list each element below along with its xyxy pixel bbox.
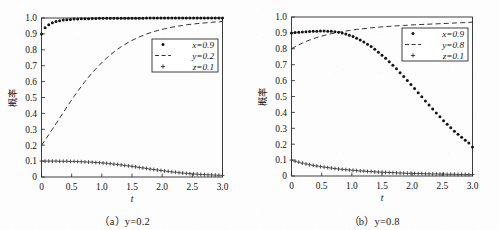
y-tick-label: 0.3 — [25, 125, 37, 135]
legend-label: z=0.1 — [441, 51, 463, 61]
series-marker-dot — [138, 17, 141, 20]
legend-label: z=0.1 — [192, 62, 214, 72]
series-marker-plus — [155, 168, 159, 172]
y-tick-label: 0.4 — [275, 108, 287, 118]
series-marker-dot — [217, 17, 220, 20]
series-marker-dot — [44, 26, 47, 29]
series-marker-dot — [131, 17, 134, 20]
series-marker-plus — [307, 163, 311, 167]
panel-b-caption: （b）y=0.8 — [250, 213, 499, 228]
series-marker-dot — [322, 29, 325, 32]
series-marker-plus — [159, 169, 163, 173]
series-marker-plus — [90, 160, 94, 164]
series-marker-dot — [402, 75, 405, 78]
y-tick-label: 0.1 — [25, 156, 37, 166]
y-tick-label: 0.9 — [25, 29, 37, 39]
series-marker-dot — [159, 17, 162, 20]
series-marker-plus — [430, 172, 434, 176]
series-marker-dot — [167, 17, 170, 20]
series-marker-plus — [296, 160, 300, 164]
series-marker-dot — [94, 17, 97, 20]
series-marker-dot — [297, 31, 300, 34]
series-marker-dot — [463, 139, 466, 142]
series-marker-dot — [413, 87, 416, 90]
series-marker-dot — [73, 18, 76, 21]
y-tick-label: 0.5 — [25, 93, 37, 103]
series-marker-dot — [449, 126, 452, 129]
series-marker-dot — [109, 17, 112, 20]
series-marker-plus — [343, 168, 347, 172]
series-marker-dot — [351, 35, 354, 38]
series-marker-plus — [325, 166, 329, 170]
y-tick-label: 0.7 — [275, 60, 287, 70]
legend-label: y=0.8 — [441, 40, 464, 50]
series-marker-plus — [199, 173, 203, 177]
x-tick-label: 1.5 — [126, 182, 138, 192]
series-marker-plus — [318, 165, 322, 169]
series-marker-plus — [347, 168, 351, 172]
x-axis-label: t — [131, 193, 134, 204]
series-marker-dot — [442, 119, 445, 122]
panel-a-plot: 00.10.20.30.40.50.60.70.80.91.000.51.01.… — [0, 0, 249, 230]
series-marker-dot — [326, 30, 329, 33]
x-tick-label: 1.0 — [345, 181, 357, 191]
series-marker-plus — [148, 167, 152, 171]
series-marker-plus — [394, 171, 398, 175]
series-marker-dot — [318, 29, 321, 32]
series-marker-plus — [112, 162, 116, 166]
legend-label: y=0.2 — [191, 51, 214, 61]
y-tick-label: 0.5 — [275, 92, 287, 102]
series-marker-plus — [365, 169, 369, 173]
series-marker-dot — [293, 31, 296, 34]
series-marker-plus — [83, 160, 87, 164]
y-tick-label: 0 — [32, 172, 37, 182]
series-marker-dot — [315, 30, 318, 33]
y-tick-label: 1.0 — [25, 13, 37, 23]
series-marker-plus — [372, 170, 376, 174]
series-marker-plus — [141, 166, 145, 170]
series-marker-plus — [405, 171, 409, 175]
series-marker-dot — [174, 17, 177, 20]
series-marker-plus — [351, 168, 355, 172]
series-marker-dot — [188, 17, 191, 20]
legend-label: x=0.9 — [441, 29, 464, 39]
series-marker-plus — [119, 163, 123, 167]
legend-marker-dot — [162, 43, 165, 46]
series-marker-dot — [47, 23, 50, 26]
series-marker-dot — [170, 17, 173, 20]
series-marker-dot — [214, 17, 217, 20]
series-marker-plus — [123, 163, 127, 167]
series-marker-plus — [50, 159, 54, 163]
series-marker-plus — [203, 173, 207, 177]
series-marker-plus — [438, 172, 442, 176]
series-marker-plus — [54, 159, 58, 163]
series-marker-plus — [423, 172, 427, 176]
series-marker-dot — [127, 17, 130, 20]
figure-root: 00.10.20.30.40.50.60.70.80.91.000.51.01.… — [0, 0, 499, 230]
series-marker-plus — [427, 172, 431, 176]
series-marker-plus — [101, 161, 105, 165]
series-marker-dot — [62, 19, 65, 22]
series-marker-plus — [322, 165, 326, 169]
y-tick-label: 1.0 — [275, 12, 287, 22]
series-marker-plus — [43, 159, 47, 163]
series-marker-plus — [416, 172, 420, 176]
series-marker-dot — [141, 17, 144, 20]
series-marker-plus — [401, 171, 405, 175]
panel-b-plot: 00.10.20.30.40.50.60.70.80.91.000.51.01.… — [250, 0, 499, 230]
series-marker-dot — [438, 115, 441, 118]
series-marker-plus — [188, 172, 192, 176]
panel-b: 00.10.20.30.40.50.60.70.80.91.000.51.01.… — [250, 0, 499, 230]
series-marker-dot — [416, 91, 419, 94]
series-marker-plus — [79, 160, 83, 164]
series-marker-plus — [61, 159, 65, 163]
series-marker-plus — [98, 161, 102, 165]
series-marker-dot — [65, 18, 68, 21]
y-tick-label: 0.9 — [275, 28, 287, 38]
series-marker-dot — [398, 71, 401, 74]
series-marker-plus — [311, 163, 315, 167]
series-marker-dot — [178, 17, 181, 20]
series-marker-plus — [130, 164, 134, 168]
series-marker-dot — [221, 17, 224, 20]
series-marker-plus — [354, 169, 358, 173]
